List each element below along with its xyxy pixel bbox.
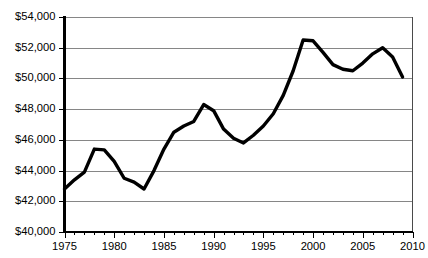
cutoff-caption-text: [4, 251, 424, 258]
chart-plot-svg: $40,000$42,000$44,000$46,000$48,000$50,0…: [0, 0, 428, 258]
y-tick-label: $52,000: [15, 41, 55, 53]
y-tick-label: $46,000: [15, 133, 55, 145]
data-series-line: [65, 40, 403, 189]
gridlines-group: [65, 18, 413, 202]
y-tick-label: $48,000: [15, 102, 55, 114]
y-tick-label: $40,000: [15, 225, 55, 237]
y-tick-label: $50,000: [15, 71, 55, 83]
y-axis-tick-labels: $40,000$42,000$44,000$46,000$48,000$50,0…: [15, 10, 55, 237]
y-tick-label: $44,000: [15, 164, 55, 176]
y-tick-label: $54,000: [15, 10, 55, 22]
line-chart-figure: $40,000$42,000$44,000$46,000$48,000$50,0…: [0, 0, 428, 258]
y-tick-label: $42,000: [15, 194, 55, 206]
